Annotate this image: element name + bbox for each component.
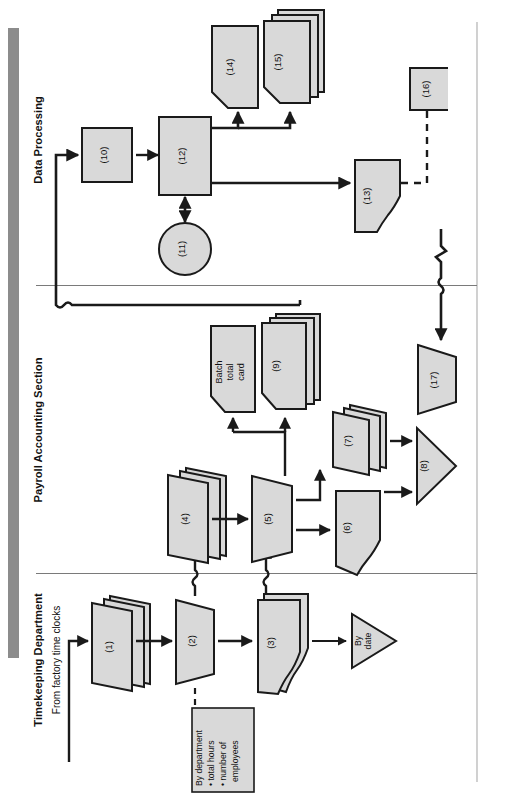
node-n17-label: (17) — [428, 372, 439, 389]
node-n13: (13) — [355, 160, 400, 232]
annotation-line-4: employees — [230, 740, 240, 782]
lane-title-dataproc-label: Data Processing — [32, 96, 44, 184]
node-n15: (15) — [264, 10, 324, 103]
flow-n13-to-n17 — [436, 229, 446, 340]
node-n3-label: (3) — [265, 637, 276, 649]
node-n17: (17) — [418, 345, 456, 414]
flow-entry-to-n1 — [69, 641, 88, 762]
node-n1: (1) — [92, 596, 150, 691]
node-n4-label: (4) — [179, 513, 190, 525]
flowchart-canvas: Data Processing Payroll Accounting Secti… — [0, 0, 508, 799]
flow-n5-up-split — [233, 432, 285, 476]
annotation-line-2: • total hours — [206, 740, 216, 786]
entry-note-label: From factory time clocks — [51, 606, 62, 714]
node-n4: (4) — [168, 468, 226, 563]
node-n6-label: (6) — [341, 522, 352, 534]
node-n10: (10) — [82, 128, 132, 182]
lane-title-payroll-label: Payroll Accounting Section — [32, 357, 44, 502]
flow-n5-to-n7 — [296, 470, 320, 500]
annotation-line-1: By department — [194, 729, 204, 786]
node-n10-label: (10) — [98, 147, 109, 164]
node-n3: (3) — [258, 594, 308, 694]
node-n16-label: (16) — [420, 81, 431, 98]
node-n1-label: (1) — [103, 641, 114, 653]
entry-note: From factory time clocks — [51, 606, 62, 714]
node-n5-label: (5) — [262, 513, 273, 525]
file-bydate-line-1: By — [353, 635, 363, 646]
node-n5: (5) — [252, 476, 292, 562]
batch-total-card-line-2: total — [225, 363, 235, 380]
lane-title-timekeeping-label: Timekeeping Department — [32, 593, 44, 727]
node-n8-label: (8) — [418, 460, 429, 472]
node-n14-label: (14) — [224, 59, 235, 76]
node-n6: (6) — [336, 491, 380, 575]
node-n12-label: (12) — [176, 148, 187, 165]
node-n11-label: (11) — [176, 241, 187, 257]
lane-title-dataproc: Data Processing — [32, 96, 44, 184]
dashed-n16-to-n13 — [398, 111, 427, 183]
annotation-line-3: • number of — [218, 741, 228, 786]
node-n8: (8) — [417, 428, 456, 504]
file-bydate-line-2: date — [363, 632, 373, 649]
node-n15-label: (15) — [272, 54, 283, 71]
node-n2: (2) — [176, 600, 214, 684]
node-n12: (12) — [159, 117, 211, 195]
node-n13-label: (13) — [361, 188, 372, 205]
flow-n12-to-n15 — [238, 112, 290, 128]
flow-n12-to-n14 — [211, 112, 238, 128]
batch-total-card-line-1: Batch — [214, 360, 224, 383]
node-n2-label: (2) — [186, 635, 197, 647]
node-batch-total-card: Batch total card — [211, 326, 255, 412]
annotation-by-department: By department • total hours • number of … — [192, 708, 254, 792]
node-n16: (16) — [410, 68, 448, 110]
node-n9-label: (9) — [270, 360, 281, 372]
node-n9: (9) — [262, 314, 320, 409]
node-n7: (7) — [333, 405, 386, 475]
node-n7-label: (7) — [342, 435, 353, 447]
batch-total-card-line-3: card — [236, 363, 246, 381]
left-margin-bar — [8, 28, 19, 658]
lane-title-timekeeping: Timekeeping Department — [32, 593, 44, 727]
file-triangle-by-date: By date — [352, 614, 396, 668]
node-n14: (14) — [212, 26, 258, 108]
node-n11: (11) — [159, 223, 211, 275]
lane-title-payroll: Payroll Accounting Section — [32, 357, 44, 502]
